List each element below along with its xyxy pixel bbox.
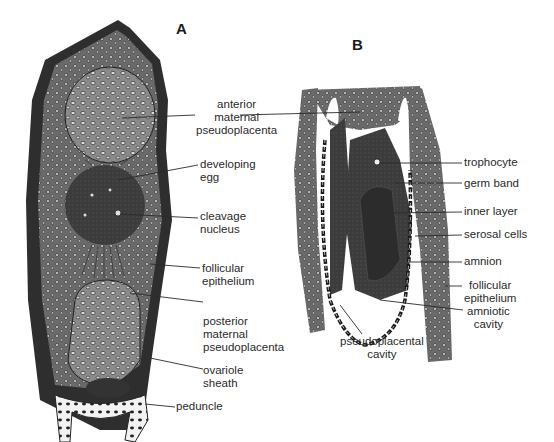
panel-a-ovariole xyxy=(26,20,172,442)
label-ovariole-sheath: ovariole sheath xyxy=(203,364,243,390)
label-amnion: amnion xyxy=(464,255,502,268)
label-cleavage-nucleus: cleavage nucleus xyxy=(200,210,246,236)
panel-letter-b: B xyxy=(352,36,363,53)
follicular-column-left xyxy=(294,88,325,333)
label-anterior-maternal-pseudoplacenta: anterior maternal pseudoplacenta xyxy=(196,98,277,137)
label-follicular-epithelium-a: follicular epithelium xyxy=(202,262,254,288)
label-follicular-epithelium-b: follicular epithelium xyxy=(464,279,516,305)
label-trophocyte: trophocyte xyxy=(464,156,518,169)
label-inner-layer: inner layer xyxy=(464,205,518,218)
figure-canvas xyxy=(0,0,554,442)
panel-b-embryo xyxy=(294,86,452,362)
label-pseudoplacental-cavity: pseudoplacental cavity xyxy=(340,335,424,361)
cleavage-nucleus-shape xyxy=(115,210,121,216)
label-germ-band: germ band xyxy=(464,177,519,190)
label-peduncle: peduncle xyxy=(176,400,223,413)
trophocyte-shape xyxy=(374,159,380,165)
label-developing-egg: developing egg xyxy=(200,158,256,184)
label-posterior-maternal-pseudoplacenta: posterior maternal pseudoplacenta xyxy=(203,315,284,354)
label-serosal-cells: serosal cells xyxy=(464,228,527,241)
label-amniotic-cavity: amniotic cavity xyxy=(467,305,510,331)
anterior-pseudoplacenta-shape xyxy=(65,67,155,163)
posterior-pseudoplacenta-shape xyxy=(68,280,140,385)
panel-letter-a: A xyxy=(176,20,187,37)
follicular-column-right xyxy=(408,88,452,362)
